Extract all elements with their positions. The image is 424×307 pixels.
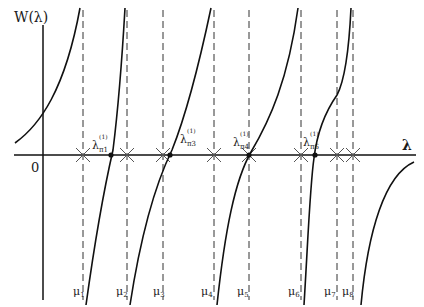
plot-canvas: W(λ) λ 0 λπ1(1) λπ3(1) λπ4(1) λπ6(1) μ1 … bbox=[0, 0, 424, 307]
curve-branch-3 bbox=[217, 8, 298, 305]
root-labels: λπ1(1) λπ3(1) λπ4(1) λπ6(1) bbox=[92, 127, 320, 154]
root-dot bbox=[108, 152, 113, 157]
root-dot bbox=[167, 152, 172, 157]
root-label-pi3: λπ3(1) bbox=[180, 127, 196, 148]
eigenvalue-interlacing-diagram: W(λ) λ 0 λπ1(1) λπ3(1) λπ4(1) λπ6(1) μ1 … bbox=[0, 0, 424, 307]
y-axis-label: W(λ) bbox=[14, 9, 48, 25]
pole-label-mu7: μ7 bbox=[324, 285, 336, 299]
pole-labels: μ1 μ2 μ3 μ4 μ5 μ6 μ7 μ8 bbox=[73, 285, 354, 299]
pole-label-mu5: μ5 bbox=[237, 285, 249, 299]
root-label-pi4: λπ4(1) bbox=[233, 130, 250, 151]
origin-label: 0 bbox=[31, 160, 39, 175]
pole-label-mu4: μ4 bbox=[201, 285, 213, 299]
curve-branch-1 bbox=[86, 8, 125, 305]
pole-label-mu6: μ6 bbox=[288, 285, 300, 299]
pole-label-mu8: μ8 bbox=[342, 285, 354, 299]
curve-branch-0 bbox=[15, 8, 80, 143]
root-label-pi1: λπ1(1) bbox=[92, 133, 108, 154]
root-dot bbox=[246, 152, 251, 157]
x-axis-label: λ bbox=[402, 137, 412, 153]
curve-branch-4 bbox=[304, 8, 351, 305]
pole-label-mu2: μ2 bbox=[116, 285, 128, 299]
root-dot bbox=[312, 152, 317, 157]
curve-branch-5 bbox=[361, 162, 414, 305]
